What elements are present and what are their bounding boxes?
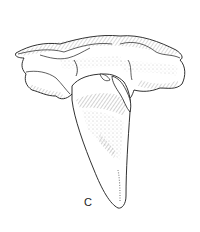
tooth — [72, 74, 131, 208]
illustration — [0, 0, 200, 232]
panel-label: C — [84, 196, 92, 208]
tooth-drawing — [0, 0, 200, 232]
